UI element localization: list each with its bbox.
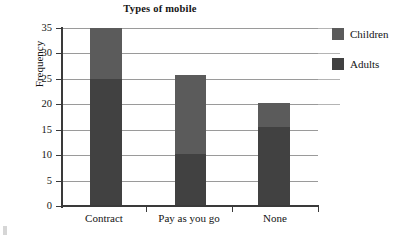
bar-segment-adults-none[interactable]: [258, 127, 290, 206]
y-tick-label-0: 0: [47, 201, 52, 212]
gridline-extension: [318, 104, 340, 105]
plot-area: [62, 28, 318, 206]
legend-label-adults: Adults: [350, 58, 379, 70]
chart-legend: Children Adults: [332, 24, 400, 84]
y-tick-label-5: 5: [47, 176, 52, 187]
x-tick-label-none: None: [232, 212, 318, 225]
x-tick-label-contract: Contract: [62, 212, 146, 225]
chart-figure: Types of mobile Frequency 35 30 25 20 15…: [0, 0, 400, 244]
y-tick-label-35: 35: [42, 23, 53, 34]
x-tick-label-pay-as-you-go: Pay as you go: [146, 212, 232, 225]
chart-title: Types of mobile: [0, 3, 320, 14]
y-tick-label-20: 20: [42, 99, 53, 110]
y-axis-line: [61, 27, 63, 208]
legend-item-children[interactable]: Children: [332, 24, 400, 44]
y-tick-label-30: 30: [42, 48, 53, 59]
bar-segment-children-none[interactable]: [258, 103, 290, 127]
legend-item-adults[interactable]: Adults: [332, 54, 400, 74]
x-axis-line: [61, 205, 319, 207]
x-tick-mark-3: [318, 206, 319, 212]
bar-pay-as-you-go[interactable]: [175, 28, 206, 206]
legend-swatch-adults-icon: [332, 58, 344, 70]
y-axis-title: Frequency: [33, 0, 45, 129]
bar-segment-children-pay-as-you-go[interactable]: [175, 75, 206, 154]
bar-contract[interactable]: [90, 28, 122, 206]
bar-segment-adults-contract[interactable]: [90, 79, 122, 206]
legend-swatch-children-icon: [332, 28, 344, 40]
y-tick-label-10: 10: [42, 150, 53, 161]
y-tick-label-25: 25: [42, 74, 53, 85]
bar-segment-children-contract[interactable]: [90, 28, 122, 79]
y-tick-label-15: 15: [42, 125, 53, 136]
scan-artifact: [3, 226, 7, 235]
bar-none[interactable]: [258, 28, 290, 206]
legend-label-children: Children: [350, 28, 389, 40]
bar-segment-adults-pay-as-you-go[interactable]: [175, 154, 206, 206]
